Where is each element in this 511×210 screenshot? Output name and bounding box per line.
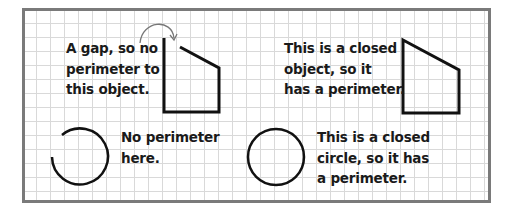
caption-line: perimeter to [66,59,160,80]
open-circle-caption: No perimeter here. [121,127,219,168]
caption-line: This is a closed [317,127,430,148]
shapes-layer [0,0,511,210]
caption-line: No perimeter [121,127,219,148]
open-quadrilateral-caption: A gap, so no perimeter to this object. [66,38,160,100]
caption-line: circle, so it has [317,148,430,169]
closed-quadrilateral-caption: This is a closed object, so it has a per… [284,38,405,100]
open-quadrilateral-shape [164,38,219,112]
caption-line: A gap, so no [66,38,160,59]
caption-line: has a perimeter. [284,79,405,100]
open-circle-shape [52,128,108,184]
closed-quadrilateral-shape [403,40,459,113]
caption-line: this object. [66,79,160,100]
caption-line: object, so it [284,59,405,80]
closed-circle-caption: This is a closed circle, so it has a per… [317,127,430,189]
caption-line: here. [121,148,219,169]
caption-line: a perimeter. [317,168,430,189]
closed-circle-shape [248,129,304,185]
caption-line: This is a closed [284,38,405,59]
